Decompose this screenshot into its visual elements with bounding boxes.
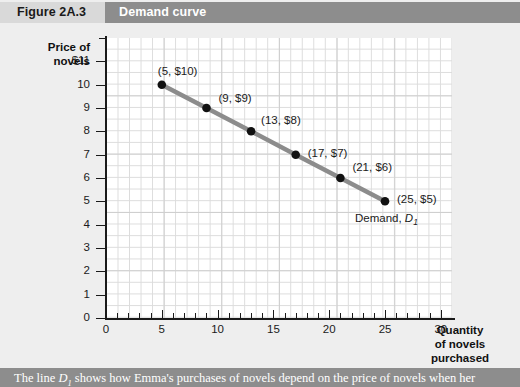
x-axis-title-line3: purchased [410,351,510,365]
x-tick [419,313,420,319]
data-point-label: (5, $10) [158,65,198,77]
x-tick [240,313,241,319]
x-tick [363,313,364,319]
x-tick-label: 15 [253,323,293,335]
x-axis-title-line2: of novels [410,337,510,351]
x-tick-label: 5 [142,323,182,335]
x-tick [352,313,353,319]
x-tick [385,310,386,319]
x-tick [162,310,163,319]
y-tick [96,295,105,296]
y-tick-label: 4 [30,218,90,230]
y-tick [96,131,105,132]
demand-curve-label: Demand, D1 [355,212,418,227]
x-tick [374,313,375,319]
y-tick [96,318,105,319]
y-tick-label: 9 [30,101,90,113]
plot-area-background [106,38,452,318]
figure-number: Figure 2A.3 [17,5,86,19]
y-tick [96,155,105,156]
x-tick [273,310,274,319]
x-tick [307,313,308,319]
x-tick-label: 25 [365,323,405,335]
data-point-label: (9, $9) [218,92,251,104]
figure-caption: The line D1 shows how Emma's purchases o… [14,371,475,387]
y-tick-label: 2 [30,264,90,276]
caption-prefix: The line [14,371,58,385]
data-point-label: (13, $8) [261,114,301,126]
x-axis-title: Quantity of novels purchased [410,323,510,365]
x-tick [151,313,152,319]
x-tick [184,313,185,319]
x-tick [218,310,219,319]
y-axis-line [105,36,107,320]
caption-suffix: shows how Emma's purchases of novels dep… [72,371,476,385]
x-tick [318,313,319,319]
curve-label-text: Demand, [355,212,405,224]
y-tick-label: 8 [30,124,90,136]
y-tick-label: 3 [30,241,90,253]
x-tick-label: 20 [309,323,349,335]
x-tick [262,313,263,319]
x-tick [173,313,174,319]
y-tick-label: 7 [30,148,90,160]
y-axis-title: Price of novels [20,40,90,68]
figure-title: Demand curve [119,5,206,19]
y-tick-label: 5 [30,194,90,206]
x-tick [407,313,408,319]
x-tick [251,313,252,319]
curve-label-subscript: 1 [413,217,418,227]
x-tick-label: 0 [86,323,126,335]
data-point-label: (25, $5) [397,193,437,205]
x-tick [195,313,196,319]
curve-label-symbol: D [405,212,413,224]
x-tick [117,313,118,319]
y-tick [96,178,105,179]
y-tick [96,248,105,249]
y-tick-label: 0 [30,311,90,323]
y-tick-label: 6 [30,171,90,183]
x-tick [139,313,140,319]
y-tick [96,108,105,109]
y-tick-label: 10 [30,78,90,90]
x-tick [396,313,397,319]
x-tick-label: 10 [198,323,238,335]
x-tick [206,313,207,319]
x-axis-title-line1: Quantity [410,323,510,337]
data-point-label: (17, $7) [308,147,348,159]
x-tick [340,313,341,319]
y-tick [96,225,105,226]
y-axis-title-line1: Price of [20,40,90,54]
x-tick [229,313,230,319]
x-tick [106,310,107,319]
y-tick [96,201,105,202]
x-axis-line [105,318,455,320]
figure-title-band: Demand curve [105,2,520,23]
y-tick-label: 1 [30,288,90,300]
x-tick [430,313,431,319]
y-tick [99,38,105,39]
x-tick [128,313,129,319]
x-tick [441,310,442,319]
y-tick [96,85,105,86]
y-tick [96,61,105,62]
x-tick [296,313,297,319]
x-tick [329,310,330,319]
x-tick [285,313,286,319]
y-tick [96,271,105,272]
y-axis-title-line2: novels [20,54,90,68]
figure-container: Demand curve Figure 2A.3 012345678910$11… [0,0,520,387]
data-point-label: (21, $6) [352,161,392,173]
